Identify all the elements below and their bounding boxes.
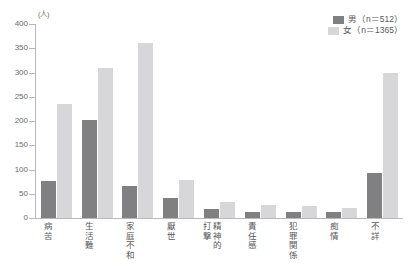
bar-group bbox=[163, 24, 194, 218]
bar-group bbox=[82, 24, 113, 218]
y-axis-tick-label: 0 bbox=[4, 214, 28, 222]
bar-female bbox=[138, 43, 153, 218]
y-axis-tick bbox=[29, 48, 36, 49]
x-axis-line bbox=[35, 218, 403, 219]
bar-male bbox=[82, 120, 97, 218]
x-axis-label-column: 責任感 bbox=[248, 222, 258, 251]
x-axis-label: 病苦 bbox=[44, 222, 54, 241]
x-axis-label-column: 精神的 bbox=[212, 222, 222, 251]
x-axis-label: 痴情 bbox=[329, 222, 339, 241]
plot-area bbox=[36, 24, 403, 218]
x-axis-label: 責任感 bbox=[248, 222, 258, 251]
bar-group bbox=[326, 24, 357, 218]
bar-male bbox=[204, 209, 219, 218]
bar-female bbox=[383, 73, 398, 218]
bar-female bbox=[57, 104, 72, 218]
y-axis-tick-label: 300 bbox=[4, 69, 28, 77]
bar-male bbox=[163, 198, 178, 218]
x-axis-label: 打撃精神的 bbox=[202, 222, 222, 251]
legend-swatch-female-icon bbox=[328, 27, 339, 35]
bar-female bbox=[179, 180, 194, 218]
y-axis-tick bbox=[29, 97, 36, 98]
x-axis-label-column: 厭世 bbox=[166, 222, 176, 241]
y-axis-tick bbox=[29, 121, 36, 122]
x-axis-label-column: 生活難 bbox=[85, 222, 95, 251]
bar-group bbox=[367, 24, 398, 218]
x-axis-label-column: 痴情 bbox=[329, 222, 339, 241]
bar-chart: (人) 400350300250200150100500 病苦生活難家庭不和厭世… bbox=[0, 0, 409, 275]
bar-male bbox=[245, 212, 260, 218]
bar-female bbox=[261, 205, 276, 218]
bar-group bbox=[122, 24, 153, 218]
legend-item-female: 女（n＝1365） bbox=[328, 25, 403, 36]
x-axis-label-column: 不詳 bbox=[370, 222, 380, 241]
bar-male bbox=[41, 181, 56, 218]
legend-label-male: 男（n＝512） bbox=[348, 14, 403, 25]
y-axis-tick bbox=[29, 24, 36, 25]
legend-swatch-male-icon bbox=[333, 16, 344, 24]
y-axis-tick-label: 100 bbox=[4, 166, 28, 174]
bar-female bbox=[220, 202, 235, 218]
y-axis-tick-label: 400 bbox=[4, 20, 28, 28]
x-axis-label: 家庭不和 bbox=[125, 222, 135, 260]
bar-group bbox=[204, 24, 235, 218]
x-axis-label: 不詳 bbox=[370, 222, 380, 241]
y-axis-tick-label: 50 bbox=[4, 190, 28, 198]
legend-item-male: 男（n＝512） bbox=[328, 14, 403, 25]
x-axis-label: 厭世 bbox=[166, 222, 176, 241]
bar-male bbox=[286, 212, 301, 218]
bar-female bbox=[302, 206, 317, 218]
x-axis-label: 犯罪関係 bbox=[289, 222, 299, 260]
bar-male bbox=[122, 186, 137, 218]
x-axis-label-column: 家庭不和 bbox=[125, 222, 135, 260]
bar-group bbox=[245, 24, 276, 218]
bar-male bbox=[367, 173, 382, 218]
y-axis-tick bbox=[29, 73, 36, 74]
x-axis-label-column: 病苦 bbox=[44, 222, 54, 241]
bar-group bbox=[41, 24, 72, 218]
y-axis-tick-label: 200 bbox=[4, 117, 28, 125]
y-axis-tick bbox=[29, 194, 36, 195]
bar-male bbox=[326, 212, 341, 218]
bar-female bbox=[342, 208, 357, 218]
y-axis-tick bbox=[29, 170, 36, 171]
legend-label-female: 女（n＝1365） bbox=[343, 25, 403, 36]
x-axis-label-column: 犯罪関係 bbox=[289, 222, 299, 260]
y-axis-tick bbox=[29, 145, 36, 146]
bar-group bbox=[286, 24, 317, 218]
x-axis-label: 生活難 bbox=[85, 222, 95, 251]
y-axis-tick-label: 250 bbox=[4, 93, 28, 101]
legend: 男（n＝512） 女（n＝1365） bbox=[328, 14, 403, 36]
x-axis-label-column: 打撃 bbox=[202, 222, 212, 241]
y-axis-tick-label: 150 bbox=[4, 141, 28, 149]
bar-female bbox=[98, 68, 113, 218]
y-axis-unit-label: (人) bbox=[38, 8, 49, 19]
y-axis-tick-label: 350 bbox=[4, 44, 28, 52]
y-axis-tick bbox=[29, 218, 36, 219]
